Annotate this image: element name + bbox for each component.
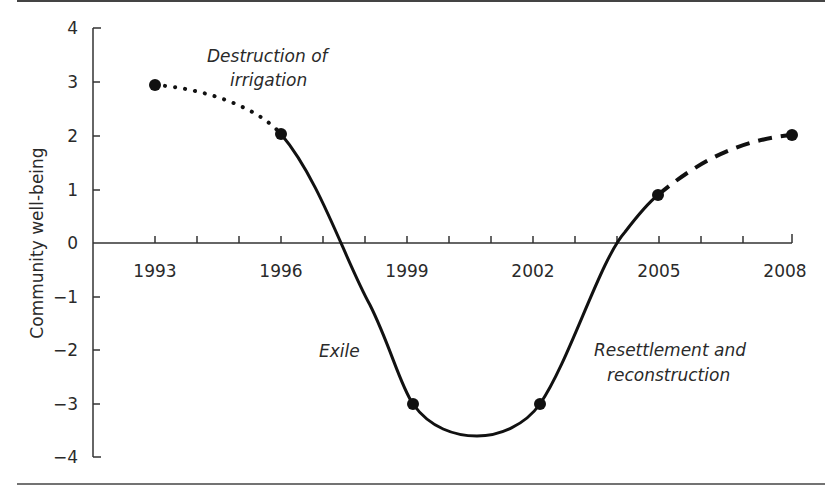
x-axis: 1993 1996 1999 2002 2005 2008 xyxy=(93,234,807,281)
annotation-destruction-line1: Destruction of xyxy=(207,46,331,66)
x-tick-label: 1996 xyxy=(259,261,302,281)
data-point xyxy=(149,79,161,91)
y-tick-label: −2 xyxy=(53,340,78,360)
y-tick-label: 0 xyxy=(67,233,78,253)
annotation-resettlement-line1: Resettlement and xyxy=(594,340,746,360)
annotation-resettlement-line2: reconstruction xyxy=(607,365,730,385)
data-point xyxy=(652,189,664,201)
segment-exile-solid xyxy=(281,134,658,436)
annotation-destruction-line2: irrigation xyxy=(230,70,307,90)
data-point xyxy=(407,398,419,410)
segment-resettlement-dashed xyxy=(658,135,792,195)
data-point xyxy=(275,128,287,140)
x-tick-label: 2005 xyxy=(637,261,680,281)
segment-destruction-dotted xyxy=(155,85,281,134)
data-point xyxy=(786,129,798,141)
x-tick-label: 2008 xyxy=(763,261,806,281)
x-tick-label: 1999 xyxy=(385,261,428,281)
y-axis-label: Community well-being xyxy=(27,147,47,338)
data-points xyxy=(149,79,798,410)
x-tick-label: 1993 xyxy=(133,261,176,281)
y-tick-label: 4 xyxy=(67,18,78,38)
chart: 4 3 2 1 0 −1 −2 −3 −4 Community well-bei… xyxy=(0,0,837,493)
y-tick-label: 1 xyxy=(67,180,78,200)
y-tick-label: −4 xyxy=(53,447,78,467)
y-tick-label: 3 xyxy=(67,72,78,92)
y-tick-label: 2 xyxy=(67,126,78,146)
x-tick-label: 2002 xyxy=(511,261,554,281)
y-tick-label: −1 xyxy=(53,287,78,307)
y-tick-label: −3 xyxy=(53,394,78,414)
annotation-exile: Exile xyxy=(319,341,360,361)
data-point xyxy=(534,398,546,410)
